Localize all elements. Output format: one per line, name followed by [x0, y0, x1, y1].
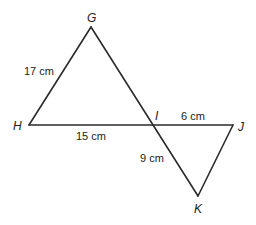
geometry-diagram: G H I J K 17 cm 15 cm 6 cm 9 cm	[0, 0, 256, 225]
vertex-label-h: H	[13, 119, 22, 133]
vertex-label-g: G	[87, 11, 96, 25]
segment-jk	[198, 125, 233, 196]
measure-ij: 6 cm	[181, 110, 205, 122]
vertex-label-j: J	[237, 120, 245, 134]
measure-ik: 9 cm	[140, 152, 164, 164]
vertex-label-k: K	[194, 202, 203, 216]
vertex-label-i: I	[155, 109, 159, 123]
measure-gh: 17 cm	[24, 65, 54, 77]
measure-hi: 15 cm	[76, 130, 106, 142]
